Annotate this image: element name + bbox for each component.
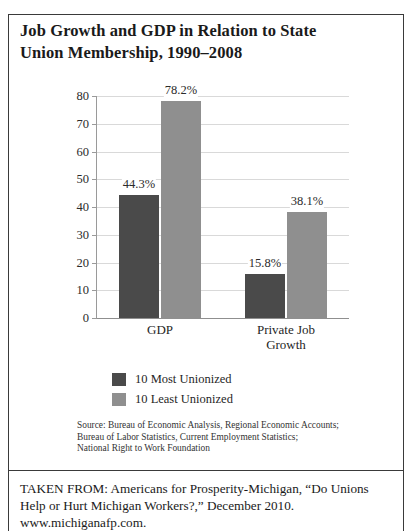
y-axis-tick-label: 60 — [77, 144, 90, 159]
y-axis-tick-mark — [92, 318, 97, 319]
y-axis-tick-label: 0 — [83, 311, 89, 326]
chart-title: Job Growth and GDP in Relation to State … — [20, 20, 360, 64]
source-line-1: Source: Bureau of Economic Analysis, Reg… — [77, 420, 387, 432]
legend-color-swatch — [112, 393, 126, 406]
chart-title-line-2: Union Membership, 1990–2008 — [20, 42, 360, 64]
chart-title-line-1: Job Growth and GDP in Relation to State — [20, 20, 360, 42]
bar-value-label: 78.2% — [164, 83, 198, 98]
legend-item: 10 Least Unionized — [112, 390, 332, 408]
attribution-note: TAKEN FROM: Americans for Prosperity-Mic… — [20, 480, 400, 531]
bar-value-label: 44.3% — [122, 177, 156, 192]
legend-item-label: 10 Most Unionized — [135, 372, 232, 387]
chart-bar: 15.8% — [245, 274, 285, 318]
y-axis-tick-mark — [92, 263, 97, 264]
legend-color-swatch — [112, 373, 126, 386]
legend-item: 10 Most Unionized — [112, 370, 332, 388]
x-axis-category-label: GDP — [147, 322, 173, 337]
gridline — [97, 124, 349, 125]
y-axis-tick-label: 70 — [77, 116, 90, 131]
y-axis-tick-mark — [92, 235, 97, 236]
attribution-line-3: www.michiganafp.com. — [20, 514, 400, 531]
frame-left-border-extension — [8, 470, 9, 531]
chart-bar: 38.1% — [287, 212, 327, 318]
y-axis-tick-mark — [92, 124, 97, 125]
frame-right-border-extension — [403, 470, 404, 531]
y-axis-tick-mark — [92, 290, 97, 291]
y-axis-tick-mark — [92, 152, 97, 153]
y-axis-tick-label: 40 — [77, 200, 90, 215]
chart-bar: 44.3% — [119, 195, 159, 318]
chart-plot-area: 80706050403020100 44.3%78.2%15.8%38.1% G… — [96, 96, 348, 318]
chart-plot-wrapper: 80706050403020100 44.3%78.2%15.8%38.1% G… — [0, 84, 412, 344]
chart-bar: 78.2% — [161, 101, 201, 318]
source-line-3: National Right to Work Foundation — [77, 443, 387, 455]
y-axis-tick-mark — [92, 207, 97, 208]
source-note: Source: Bureau of Economic Analysis, Reg… — [77, 420, 387, 455]
bar-value-label: 38.1% — [290, 194, 324, 209]
legend-item-label: 10 Least Unionized — [135, 392, 233, 407]
attribution-line-2: Help or Hurt Michigan Workers?,” Decembe… — [20, 497, 400, 514]
source-line-2: Bureau of Labor Statistics, Current Empl… — [77, 432, 387, 444]
gridline — [97, 96, 349, 97]
y-axis-tick-label: 30 — [77, 227, 90, 242]
axis-baseline — [97, 318, 349, 319]
chart-legend: 10 Most Unionized10 Least Unionized — [112, 370, 332, 410]
y-axis-tick-mark — [92, 179, 97, 180]
attribution-line-1: TAKEN FROM: Americans for Prosperity-Mic… — [20, 480, 400, 497]
y-axis-tick-label: 20 — [77, 255, 90, 270]
x-axis-category-label: Private Job Growth — [257, 322, 315, 352]
figure-divider — [8, 470, 404, 471]
y-axis-tick-label: 80 — [77, 89, 90, 104]
y-axis-tick-label: 10 — [77, 283, 90, 298]
bar-value-label: 15.8% — [248, 256, 282, 271]
y-axis-tick-label: 50 — [77, 172, 90, 187]
y-axis-tick-mark — [92, 96, 97, 97]
gridline — [97, 152, 349, 153]
